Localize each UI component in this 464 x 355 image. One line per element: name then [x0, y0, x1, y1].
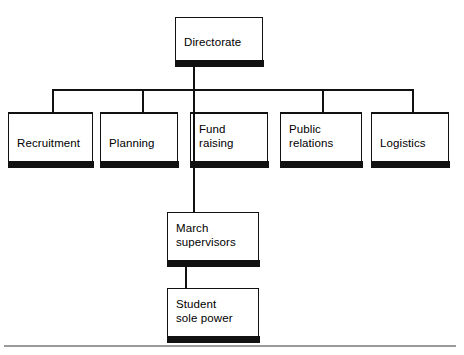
node-label-public-relations: Public relations — [289, 123, 357, 150]
node-recruitment[interactable]: Recruitment — [8, 113, 93, 161]
node-shadow-bar — [175, 60, 264, 67]
node-label-march-supervisors: March supervisors — [176, 222, 254, 249]
connector-drop-planning — [142, 89, 144, 114]
node-label-fund-raising: Fund raising — [199, 123, 263, 150]
node-planning[interactable]: Planning — [100, 113, 178, 161]
node-label-student-sole-power: Student sole power — [176, 298, 254, 325]
connector-directorate-to-bus — [193, 67, 195, 91]
connector-drop-recruitment — [52, 89, 54, 114]
connector-drop-logistics — [412, 89, 414, 114]
node-shadow-bar — [190, 161, 269, 168]
connector-spine-main — [193, 89, 195, 213]
node-shadow-bar — [280, 161, 363, 168]
node-label-logistics: Logistics — [380, 137, 444, 151]
node-shadow-bar — [167, 336, 260, 343]
org-chart: Directorate Recruitment Planning Fund ra… — [0, 0, 464, 355]
node-logistics[interactable]: Logistics — [371, 113, 449, 161]
node-directorate[interactable]: Directorate — [175, 17, 263, 60]
node-march-supervisors[interactable]: March supervisors — [167, 212, 259, 260]
connector-bus — [52, 89, 412, 91]
node-shadow-bar — [8, 161, 94, 168]
footer-caption — [5, 350, 165, 355]
footer-divider — [4, 345, 456, 347]
node-shadow-bar — [100, 161, 179, 168]
node-fund-raising[interactable]: Fund raising — [190, 113, 268, 161]
node-label-recruitment: Recruitment — [17, 137, 88, 151]
connector-drop-public-relations — [322, 89, 324, 114]
node-label-planning: Planning — [109, 137, 173, 151]
node-label-directorate: Directorate — [184, 36, 258, 50]
node-public-relations[interactable]: Public relations — [280, 113, 362, 161]
node-student-sole-power[interactable]: Student sole power — [167, 288, 259, 336]
node-shadow-bar — [371, 161, 450, 168]
node-shadow-bar — [167, 260, 260, 267]
connector-march-to-student — [185, 266, 187, 289]
